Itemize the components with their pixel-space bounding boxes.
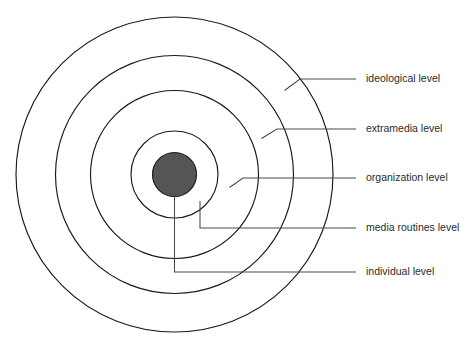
leader-line-individual [175,196,357,272]
leader-line-extramedia [262,129,357,139]
concentric-rings-diagram: ideological level extramedia level organ… [0,0,474,352]
ring-individual-core[interactable] [153,153,197,197]
label-media-routines-level: media routines level [366,221,459,233]
label-individual-level: individual level [366,265,434,277]
label-organization-level: organization level [366,171,448,183]
label-extramedia-level: extramedia level [366,122,442,134]
label-ideological-level: ideological level [366,72,440,84]
diagram-container: ideological level extramedia level organ… [0,0,474,352]
leader-line-media-routines [200,201,356,228]
leader-line-ideological [285,79,357,91]
